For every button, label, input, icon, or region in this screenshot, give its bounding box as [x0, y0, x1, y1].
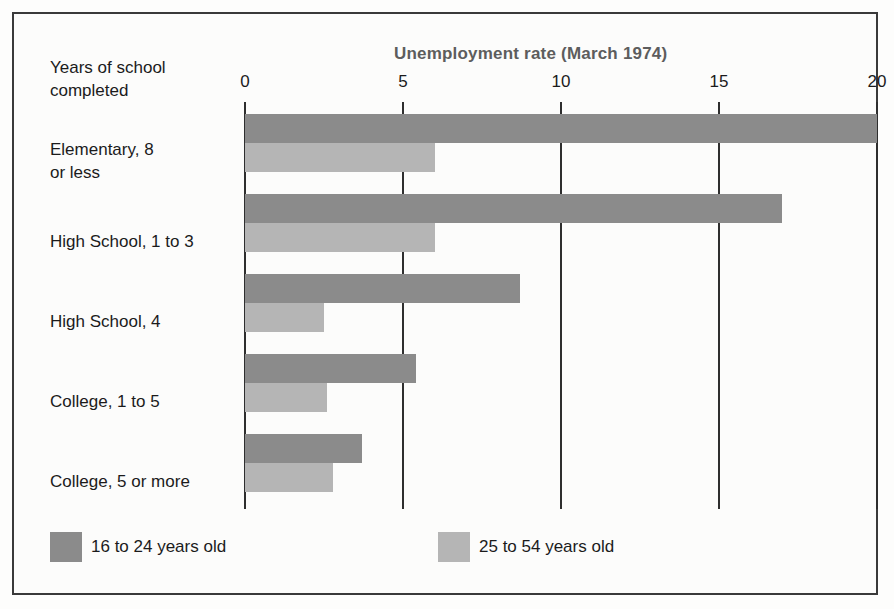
legend-label: 16 to 24 years old — [91, 537, 226, 557]
bar — [245, 463, 333, 492]
x-axis-tick-labels: 05101520 — [245, 14, 877, 102]
plot-area — [245, 102, 877, 509]
bar — [245, 434, 362, 463]
legend-swatch-icon — [50, 532, 82, 562]
bar — [245, 194, 782, 223]
bar-group — [245, 354, 877, 412]
chart-frame: Years of school completed Unemployment r… — [12, 12, 878, 595]
legend-item[interactable]: 25 to 54 years old — [438, 532, 614, 562]
legend-label: 25 to 54 years old — [479, 537, 614, 557]
x-tick-label-0: 0 — [240, 72, 249, 92]
chart-page: Years of school completed Unemployment r… — [0, 0, 894, 609]
category-label: College, 1 to 5 — [50, 390, 160, 413]
bar — [245, 354, 416, 383]
x-tick-label-5: 5 — [398, 72, 407, 92]
chart-legend: 16 to 24 years old25 to 54 years old — [14, 532, 880, 578]
bar-group — [245, 114, 877, 172]
bar — [245, 274, 520, 303]
bar — [245, 143, 435, 172]
category-label: High School, 4 — [50, 310, 161, 333]
y-axis-title-line-1: Years of school — [50, 56, 166, 79]
category-label: High School, 1 to 3 — [50, 230, 194, 253]
y-axis-title: Years of school completed — [50, 56, 166, 102]
bar-group — [245, 274, 877, 332]
bar — [245, 223, 435, 252]
bar — [245, 114, 877, 143]
legend-swatch-icon — [438, 532, 470, 562]
x-tick-label-20: 20 — [868, 72, 887, 92]
bar — [245, 303, 324, 332]
legend-item[interactable]: 16 to 24 years old — [50, 532, 226, 562]
category-label: Elementary, 8 or less — [50, 138, 154, 184]
x-tick-label-15: 15 — [710, 72, 729, 92]
category-label: College, 5 or more — [50, 470, 190, 493]
bar-group — [245, 434, 877, 492]
bar-group — [245, 194, 877, 252]
y-axis-title-line-2: completed — [50, 79, 166, 102]
bar — [245, 383, 327, 412]
x-tick-label-10: 10 — [552, 72, 571, 92]
